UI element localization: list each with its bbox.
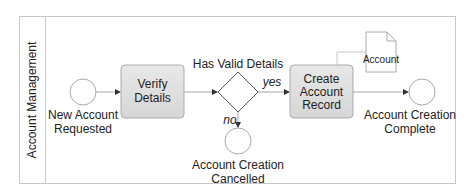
end-cancelled-label-2: Cancelled [211, 172, 264, 186]
task-verify-details[interactable]: Verify Details [121, 65, 184, 118]
task-create-label-2: Account [300, 85, 344, 99]
end-complete-label-1: Account Creation [364, 108, 456, 122]
edge-no-label: no [223, 113, 237, 127]
task-create-label-3: Record [302, 98, 341, 112]
task-create-label-1: Create [303, 72, 339, 86]
document-label: Account [363, 54, 399, 65]
gateway-label: Has Valid Details [193, 57, 283, 71]
task-create-account-record[interactable]: Create Account Record [290, 65, 353, 118]
end-cancelled-label-1: Account Creation [192, 158, 284, 172]
end-complete-label-2: Complete [384, 122, 436, 136]
start-event-label-1: New Account [48, 108, 119, 122]
task-verify-label-1: Verify [137, 77, 167, 91]
bpmn-diagram: Account Management New Account Requested… [0, 0, 473, 196]
task-verify-label-2: Details [134, 91, 171, 105]
lane-label: Account Management [25, 41, 39, 158]
start-event-label-2: Requested [54, 122, 112, 136]
edge-yes-label: yes [262, 75, 282, 89]
